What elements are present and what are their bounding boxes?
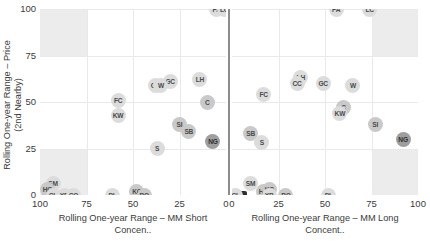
scatter-point: W: [345, 78, 360, 93]
x-axis-title-right: Rolling One-year Range – MM Long Concent…: [226, 213, 424, 236]
y-tick-label: 50: [10, 96, 36, 107]
scatter-point: FC: [111, 93, 126, 108]
x-axis-title-left: Rolling One-year Range – MM Short Concen…: [34, 213, 232, 236]
x-tick-label: 100: [32, 198, 48, 209]
chart-root: Rolling One-year Range – Price (2nd Near…: [0, 0, 430, 248]
scatter-point: NG: [205, 134, 220, 149]
panel-mm-short: PALCLHGCCCWCFCKWSISBNGSSMHGCLXBCOPLKCBO: [40, 9, 226, 195]
gridline-vertical: [87, 9, 88, 195]
scatter-point: SI: [368, 117, 383, 132]
x-tick-label: 0: [223, 198, 228, 209]
y-tick-label: 75: [10, 50, 36, 61]
x-axis-ticks: 10075502500255075100: [0, 198, 430, 212]
x-tick-label: 25: [273, 198, 284, 209]
panel-mm-long: PALCLHCCGCWFCCKWSISBNGSSMCLHGKCXBBOPL: [232, 9, 418, 195]
scatter-point: GC: [316, 76, 331, 91]
x-tick-label: 75: [366, 198, 377, 209]
x-tick-label: 50: [128, 198, 139, 209]
x-tick-label: 75: [81, 198, 92, 209]
scatter-point: BO: [278, 188, 293, 196]
scatter-point: LH: [192, 72, 207, 87]
scatter-point: SB: [181, 124, 196, 139]
gridline-vertical: [325, 9, 326, 195]
scatter-point: PA: [329, 9, 344, 17]
scatter-point: S: [150, 141, 165, 156]
shaded-quadrant: [40, 9, 87, 56]
gridline-vertical: [372, 9, 373, 195]
scatter-point: C: [200, 95, 215, 110]
gridline-vertical: [180, 9, 181, 195]
scatter-point: NG: [396, 132, 411, 147]
y-tick-label: 25: [10, 143, 36, 154]
scatter-point: PL: [105, 188, 120, 196]
scatter-point: FC: [256, 87, 271, 102]
x-tick-label: 50: [320, 198, 331, 209]
x-tick-label: 25: [174, 198, 185, 209]
panel-divider: [228, 9, 230, 195]
scatter-point: PL: [321, 188, 336, 196]
gridline-vertical: [133, 9, 134, 195]
x-tick-label: 100: [410, 198, 426, 209]
scatter-point: W: [153, 78, 168, 93]
gridline-vertical: [279, 9, 280, 195]
shaded-quadrant: [372, 149, 419, 196]
x-tick-label: 0: [229, 198, 234, 209]
shaded-quadrant: [372, 9, 419, 56]
scatter-point: BO: [137, 188, 152, 196]
scatter-point: CC: [290, 76, 305, 91]
y-tick-label: 100: [10, 3, 36, 14]
scatter-point: KW: [111, 108, 126, 123]
scatter-point: KW: [332, 106, 347, 121]
scatter-point: CL: [232, 188, 243, 196]
